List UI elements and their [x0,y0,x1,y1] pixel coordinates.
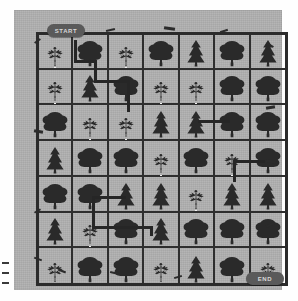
deciduous-tree-icon [181,145,211,175]
route-segment-c1 [74,40,77,62]
start-marker[interactable]: START [47,24,85,37]
maze-cell-r7c1[interactable] [38,248,73,284]
deciduous-tree-icon [111,216,141,246]
maze-cell-r2c1[interactable] [38,70,73,106]
deciduous-tree-icon [111,73,141,103]
conifer-tree-icon [219,181,245,211]
maze-cell-r2c7[interactable] [251,70,286,106]
edge-tick-1 [2,262,9,264]
maze-cell-r1c7[interactable] [251,34,286,70]
deciduous-tree-icon [217,73,247,103]
maze-cell-r3c6[interactable] [215,105,250,141]
maze-cell-r1c3[interactable] [109,34,144,70]
maze-cell-r6c6[interactable] [215,213,250,249]
maze-cell-r6c7[interactable] [251,213,286,249]
maze-cell-r7c2[interactable] [73,248,108,284]
sapling-tree-icon [112,46,140,68]
route-segment-c6 [198,120,230,123]
conifer-tree-icon [183,38,209,68]
deciduous-tree-icon [181,216,211,246]
maze-cell-r6c3[interactable] [109,213,144,249]
maze-cell-r5c4[interactable] [144,177,179,213]
sapling-tree-icon [41,46,69,68]
maze-cell-r5c3[interactable] [109,177,144,213]
route-segment-c2 [74,60,96,63]
maze-cell-r5c6[interactable] [215,177,250,213]
screenshot-stage: START END [0,0,298,301]
deciduous-tree-icon [75,38,105,68]
deciduous-tree-icon [217,216,247,246]
maze-cell-r5c1[interactable] [38,177,73,213]
maze-cell-r5c7[interactable] [251,177,286,213]
sapling-tree-icon [147,81,175,103]
deciduous-tree-icon [40,109,70,139]
sapling-tree-icon [147,153,175,175]
sapling-tree-icon [112,117,140,139]
conifer-tree-icon [183,254,209,284]
maze-cell-r6c5[interactable] [180,213,215,249]
maze-cell-r1c1[interactable] [38,34,73,70]
route-segment-c7 [233,160,265,163]
maze-cell-r6c1[interactable] [38,213,73,249]
maze-cell-r3c5[interactable] [180,105,215,141]
maze-cell-r1c6[interactable] [215,34,250,70]
deciduous-tree-icon [146,38,176,68]
maze-cell-r2c5[interactable] [180,70,215,106]
maze-cell-r4c5[interactable] [180,141,215,177]
conifer-tree-icon [77,73,103,103]
route-segment-c12 [150,226,153,236]
twig-2 [34,129,43,134]
deciduous-tree-icon [111,254,141,284]
maze-cell-r4c4[interactable] [144,141,179,177]
end-marker[interactable]: END [246,272,284,285]
maze-cell-r7c3[interactable] [109,248,144,284]
maze-cell-r2c6[interactable] [215,70,250,106]
conifer-tree-icon [148,181,174,211]
sapling-tree-icon [41,81,69,103]
maze-cell-r4c1[interactable] [38,141,73,177]
maze-cell-r3c7[interactable] [251,105,286,141]
sapling-tree-icon [182,189,210,211]
twig-5 [106,28,115,32]
deciduous-tree-icon [253,73,283,103]
forest-maze-board[interactable]: START END [14,10,282,290]
maze-cell-r3c2[interactable] [73,105,108,141]
maze-grid[interactable] [38,34,286,284]
maze-cell-r2c4[interactable] [144,70,179,106]
route-segment-c9 [92,196,126,199]
maze-cell-r1c5[interactable] [180,34,215,70]
route-segment-c3 [94,60,97,82]
edge-tick-3 [2,282,9,284]
deciduous-tree-icon [253,109,283,139]
maze-cell-r7c5[interactable] [180,248,215,284]
maze-cell-r3c1[interactable] [38,105,73,141]
route-segment-c8 [233,160,236,182]
maze-cell-r1c2[interactable] [73,34,108,70]
conifer-tree-icon [42,216,68,246]
deciduous-tree-icon [75,254,105,284]
deciduous-tree-icon [217,109,247,139]
edge-tick-2 [2,272,9,274]
conifer-tree-icon [42,145,68,175]
route-segment-c4 [94,80,128,83]
maze-cell-r5c5[interactable] [180,177,215,213]
sapling-tree-icon [182,81,210,103]
conifer-tree-icon [148,109,174,139]
maze-cell-r3c4[interactable] [144,105,179,141]
route-segment-c5 [127,80,130,112]
maze-cell-r4c3[interactable] [109,141,144,177]
deciduous-tree-icon [40,181,70,211]
deciduous-tree-icon [217,254,247,284]
conifer-tree-icon [183,109,209,139]
maze-cell-r4c2[interactable] [73,141,108,177]
deciduous-tree-icon [253,216,283,246]
twig-7 [220,29,228,33]
maze-cell-r2c2[interactable] [73,70,108,106]
maze-cell-r1c4[interactable] [144,34,179,70]
deciduous-tree-icon [111,145,141,175]
deciduous-tree-icon [75,145,105,175]
route-segment-c10 [92,196,95,226]
sapling-tree-icon [147,262,175,284]
deciduous-tree-icon [217,38,247,68]
sapling-tree-icon [76,117,104,139]
